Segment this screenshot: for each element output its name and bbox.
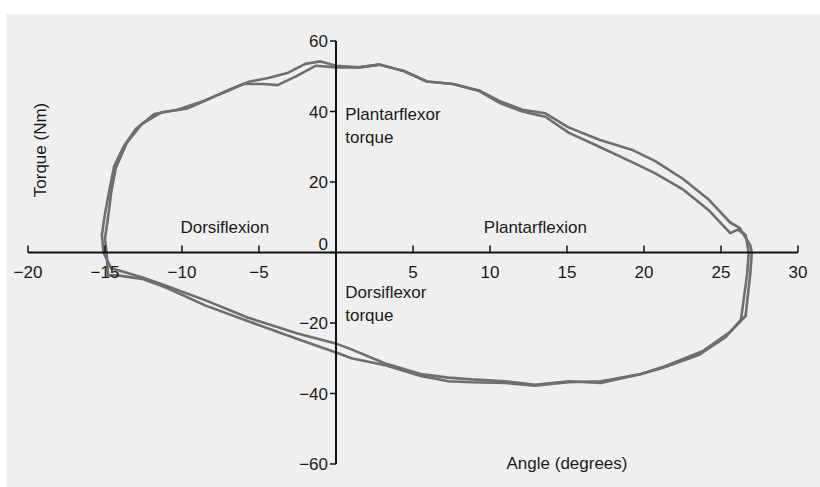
x-tick-label: 10: [481, 263, 500, 282]
y-tick-label: −60: [299, 455, 328, 474]
x-tick-label: 15: [558, 263, 577, 282]
annotation-plantarflexion: Plantarflexion: [484, 218, 587, 237]
x-tick-label: 30: [789, 263, 808, 282]
annotation-dorsiflexion: Dorsiflexion: [180, 218, 269, 237]
x-tick-label: −15: [91, 263, 120, 282]
annotation-dorsiflexor: Dorsiflexor: [345, 283, 427, 302]
annotation-torque: torque: [345, 128, 393, 147]
y-tick-label: 40: [309, 103, 328, 122]
x-tick-label: 25: [712, 263, 731, 282]
x-axis-title: Angle (degrees): [507, 454, 628, 473]
x-tick-label: 5: [408, 263, 417, 282]
x-tick-label: −5: [249, 263, 268, 282]
y-tick-label: −40: [299, 385, 328, 404]
x-tick-label: −20: [14, 263, 43, 282]
x-ticks: −20−15−10−551015202530: [14, 246, 808, 282]
y-axis-title: Torque (Nm): [31, 103, 50, 197]
annotation-plantarflexor: Plantarflexor: [345, 105, 441, 124]
y-tick-label: 20: [309, 173, 328, 192]
x-tick-label: 20: [635, 263, 654, 282]
y-tick-label: −20: [299, 314, 328, 333]
y-tick-label: 60: [309, 32, 328, 51]
annotation-torque: torque: [345, 306, 393, 325]
y-tick-label: 0: [319, 235, 328, 254]
torque-angle-chart: −20−15−10−551015202530 6040200−20−40−60 …: [0, 0, 820, 487]
x-tick-label: −10: [168, 263, 197, 282]
annotations: PlantarflexortorqueDorsiflexionPlantarfl…: [180, 105, 586, 325]
